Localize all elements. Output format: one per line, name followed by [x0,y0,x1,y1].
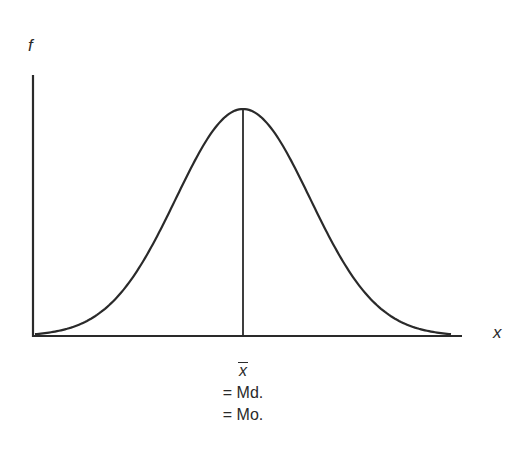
x-axis-label: x [493,323,502,343]
y-axis-label: f [28,36,33,56]
median-label: = Md. [203,382,283,404]
central-tendency-annotation: x = Md. = Mo. [203,360,283,426]
mean-symbol: x [238,362,248,379]
mode-label: = Mo. [203,404,283,426]
